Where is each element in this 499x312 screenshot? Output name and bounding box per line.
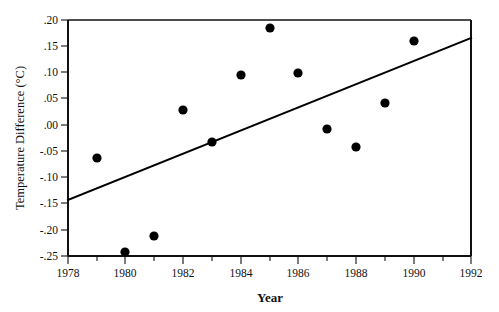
data-point-1984 [236,70,245,79]
data-point-1987 [322,124,331,133]
data-point-1989 [380,98,389,107]
x-tick-label-1992: 1992 [460,267,483,279]
y-axis-title: Temperature Difference (°C) [13,66,27,210]
y-tick-label-9: -.25 [40,250,58,262]
y-tick-label-4: .00 [44,119,59,131]
y-tick-label-2: .10 [44,66,59,78]
x-tick-label-1986: 1986 [287,267,310,279]
x-tick-label-1980: 1980 [114,267,137,279]
y-tick-label-8: -.20 [40,224,58,236]
chart-canvas: .20 .15 .10 .05 .00 -.05 -.10 -.15 -.20 … [0,0,499,312]
x-tick-label-1984: 1984 [230,267,253,279]
data-point-1982 [178,105,187,114]
data-point-1986 [293,68,302,77]
y-tick-label-1: .15 [44,40,59,52]
y-tick-label-6: -.10 [40,171,58,183]
y-tick-label-3: .05 [44,92,59,104]
data-point-1988 [351,142,360,151]
data-point-1983 [207,137,216,146]
x-tick-label-1990: 1990 [403,267,426,279]
scatter-chart-figure: .20 .15 .10 .05 .00 -.05 -.10 -.15 -.20 … [0,0,499,312]
data-point-1990 [409,36,418,45]
x-tick-label-1978: 1978 [57,267,80,279]
x-tick-label-1988: 1988 [345,267,368,279]
y-tick-label-7: -.15 [40,197,58,209]
data-point-1980 [120,247,129,256]
y-tick-label-0: .20 [44,14,59,26]
chart-background [0,0,499,312]
data-point-1979 [92,153,101,162]
data-point-1981 [149,231,158,240]
x-tick-label-1982: 1982 [172,267,195,279]
x-axis-title: Year [257,290,283,305]
data-point-1985 [265,23,274,32]
y-tick-label-5: -.05 [40,145,58,157]
